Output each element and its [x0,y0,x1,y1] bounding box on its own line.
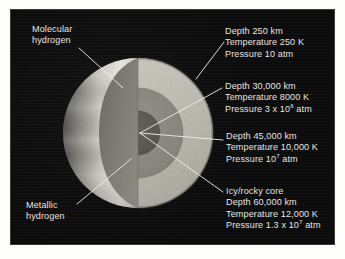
callout-core: Icy/rocky core Depth 60,000 km Temperatu… [226,186,321,232]
callout-4-pressure: Pressure 1.3 x 107 atm [226,220,321,231]
label-molecular-hydrogen: Molecular hydrogen [32,24,72,47]
label-metallic-hydrogen-line2: hydrogen [26,211,65,222]
label-molecular-hydrogen-line1: Molecular [32,24,72,35]
callout-cloud-tops: Depth 250 km Temperature 250 K Pressure … [225,26,304,60]
callout-4-temperature: Temperature 12,000 K [226,209,321,220]
callout-1-temperature: Temperature 250 K [225,37,304,48]
callout-1-depth: Depth 250 km [225,26,304,37]
callout-4-depth: Depth 60,000 km [226,197,321,208]
label-metallic-hydrogen: Metallic hydrogen [26,200,65,223]
leader-callout-1 [196,42,224,79]
callout-3-depth: Depth 45,000 km [226,131,318,142]
callout-3-pressure: Pressure 107 atm [226,154,318,165]
callout-4-heading: Icy/rocky core [226,186,321,197]
callout-2-temperature: Temperature 8000 K [225,92,312,103]
callout-deep-metallic: Depth 45,000 km Temperature 10,000 K Pre… [226,131,318,165]
label-molecular-hydrogen-line2: hydrogen [32,35,72,46]
figure-root: Molecular hydrogen Metallic hydrogen Dep… [0,0,345,259]
callout-molecular-metallic-boundary: Depth 30,000 km Temperature 8000 K Press… [225,81,312,115]
callout-1-pressure: Pressure 10 atm [225,49,304,60]
label-metallic-hydrogen-line1: Metallic [26,200,65,211]
callout-2-depth: Depth 30,000 km [225,81,312,92]
callout-3-temperature: Temperature 10,000 K [226,142,318,153]
callout-2-pressure: Pressure 3 x 106 atm [225,104,312,115]
